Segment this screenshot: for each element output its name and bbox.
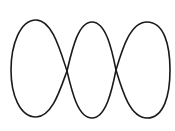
middle-loop — [67, 22, 116, 118]
right-loop — [116, 22, 170, 118]
three-loop-curve — [0, 0, 175, 131]
left-loop — [11, 20, 67, 117]
